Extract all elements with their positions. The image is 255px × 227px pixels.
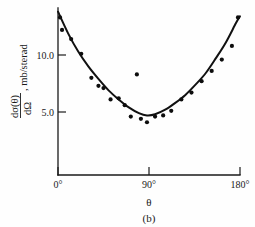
data-point [101, 86, 105, 90]
x-axis-title: θ [146, 196, 151, 208]
data-point [169, 109, 173, 113]
y-axis-label-units: , mb/sterad [18, 44, 29, 91]
data-point [60, 28, 64, 32]
figure-panel: dσ(θ) dΩ , mb/sterad 10.0 5.0 0° 90° 180… [0, 0, 255, 227]
data-point [79, 52, 83, 56]
cross-section-plot: dσ(θ) dΩ , mb/sterad 10.0 5.0 0° 90° 180… [0, 0, 255, 227]
data-point [189, 91, 193, 95]
y-axis-label: dσ(θ) dΩ , mb/sterad [9, 44, 33, 118]
data-point [210, 69, 214, 73]
data-point [89, 76, 93, 80]
data-point [58, 15, 62, 19]
data-point [230, 44, 234, 48]
data-point [179, 97, 183, 101]
data-point [199, 79, 203, 83]
fitted-curve [58, 12, 240, 116]
y-tick-label-10: 10.0 [37, 50, 55, 61]
data-point [220, 57, 224, 61]
y-tick-label-5: 5.0 [42, 107, 55, 118]
data-point [139, 117, 143, 121]
y-axis-label-denominator: dΩ [22, 102, 33, 115]
data-point-group [58, 15, 240, 124]
data-point [117, 96, 121, 100]
y-axis-label-numerator: dσ(θ) [9, 95, 21, 118]
data-point [96, 84, 100, 88]
data-point [135, 72, 139, 76]
data-point [129, 114, 133, 118]
data-point [145, 120, 149, 124]
data-point [123, 103, 127, 107]
x-tick-label-180: 180° [231, 179, 250, 190]
data-point [108, 97, 112, 101]
x-tick-label-0: 0° [54, 179, 63, 190]
x-tick-label-90: 90° [142, 179, 156, 190]
data-point [153, 114, 157, 118]
data-point [161, 113, 165, 117]
figure-caption: (b) [143, 212, 156, 225]
data-point [69, 37, 73, 41]
data-point [236, 15, 240, 19]
